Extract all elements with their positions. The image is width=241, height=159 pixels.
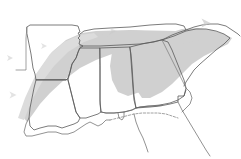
- louisiana-delta-coast: [24, 118, 110, 136]
- triangle-marker-icon[interactable]: [7, 55, 13, 61]
- triangle-marker-icon[interactable]: [41, 43, 47, 49]
- triangle-marker-icon[interactable]: [10, 92, 17, 99]
- map-figure: [0, 0, 241, 159]
- gulf-coastline: [101, 105, 162, 113]
- coastline-group: [101, 88, 210, 156]
- atlantic-coastline: [182, 88, 192, 112]
- shaded-region-group: [18, 28, 232, 122]
- state-arkansas-west-edge: [16, 27, 27, 70]
- florida-east-coast: [178, 102, 210, 156]
- mobile-bay-notch: [118, 112, 124, 120]
- map-canvas[interactable]: [0, 0, 241, 159]
- florida-west-coast: [134, 114, 148, 152]
- triangle-marker-icon[interactable]: [202, 19, 211, 28]
